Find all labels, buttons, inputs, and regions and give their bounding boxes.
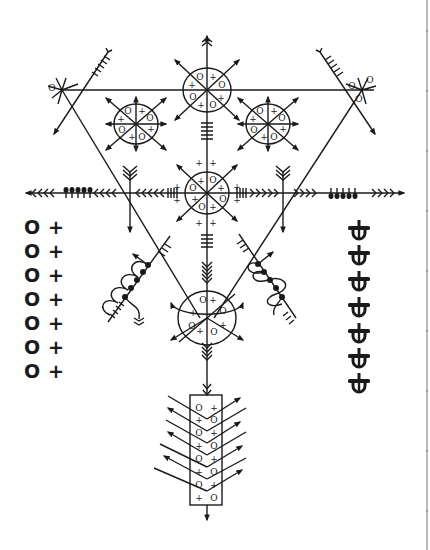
svg-text:+: + bbox=[48, 288, 64, 310]
svg-text:O: O bbox=[278, 113, 285, 123]
svg-text:+: + bbox=[48, 360, 64, 382]
svg-text:+: + bbox=[217, 183, 225, 193]
svg-text:+: + bbox=[209, 72, 217, 82]
svg-text:+: + bbox=[210, 403, 218, 413]
svg-text:O: O bbox=[219, 194, 226, 204]
crossed-loop-glyph-icon bbox=[348, 220, 370, 239]
svg-text:O: O bbox=[118, 125, 125, 135]
svg-text:+: + bbox=[195, 218, 203, 228]
svg-text:O: O bbox=[195, 454, 202, 464]
svg-text:+: + bbox=[195, 158, 203, 168]
svg-text:+: + bbox=[249, 114, 257, 124]
svg-text:O: O bbox=[138, 132, 145, 142]
svg-text:+: + bbox=[48, 336, 64, 358]
corner-arrows: O O O O bbox=[48, 48, 376, 134]
svg-text:+: + bbox=[48, 312, 64, 334]
svg-text:O: O bbox=[24, 360, 40, 382]
svg-text:O: O bbox=[218, 80, 225, 90]
svg-text:+: + bbox=[219, 320, 227, 330]
svg-text:O: O bbox=[24, 336, 40, 358]
looped-chain-right bbox=[237, 234, 296, 324]
svg-text:O: O bbox=[270, 132, 277, 142]
svg-text:+: + bbox=[209, 202, 217, 212]
svg-text:O: O bbox=[124, 106, 131, 116]
svg-text:+: + bbox=[195, 441, 203, 451]
svg-text:+: + bbox=[260, 132, 268, 142]
svg-text:+: + bbox=[210, 428, 218, 438]
svg-text:+: + bbox=[189, 308, 197, 318]
svg-text:O: O bbox=[209, 100, 216, 110]
svg-text:O: O bbox=[219, 306, 226, 316]
crossed-loop-glyph-icon bbox=[348, 245, 370, 264]
svg-text:+: + bbox=[279, 124, 287, 134]
right-glyph-column bbox=[348, 220, 370, 392]
svg-text:+: + bbox=[197, 100, 205, 110]
svg-text:+: + bbox=[270, 106, 278, 116]
svg-text:+: + bbox=[173, 182, 181, 192]
svg-text:+: + bbox=[195, 467, 203, 477]
svg-text:O: O bbox=[195, 403, 202, 413]
svg-text:+: + bbox=[217, 93, 225, 103]
crossed-loop-glyph-icon bbox=[348, 271, 370, 290]
svg-text:O: O bbox=[188, 321, 195, 331]
svg-text:+: + bbox=[147, 124, 155, 134]
svg-text:O: O bbox=[189, 183, 196, 193]
svg-text:O: O bbox=[195, 428, 202, 438]
svg-text:+: + bbox=[209, 218, 217, 228]
svg-text:+: + bbox=[210, 454, 218, 464]
sigil-ring-mark: O bbox=[348, 81, 355, 91]
svg-text:O: O bbox=[210, 467, 217, 477]
svg-text:+: + bbox=[209, 295, 217, 305]
svg-text:+: + bbox=[128, 132, 136, 142]
crossed-loop-glyph-icon bbox=[348, 373, 370, 392]
svg-text:+: + bbox=[48, 264, 64, 286]
svg-text:+: + bbox=[233, 195, 241, 205]
bottom-box: O + O + O + O + + O + O + O + O bbox=[154, 390, 246, 505]
svg-text:O: O bbox=[146, 113, 153, 123]
svg-text:O: O bbox=[250, 125, 257, 135]
svg-text:O: O bbox=[196, 72, 203, 82]
crossed-loop-glyph-icon bbox=[348, 323, 370, 342]
svg-text:+: + bbox=[117, 114, 125, 124]
svg-text:+: + bbox=[173, 195, 181, 205]
svg-text:O: O bbox=[24, 216, 40, 238]
svg-text:O: O bbox=[210, 415, 217, 425]
svg-text:+: + bbox=[195, 415, 203, 425]
svg-text:+: + bbox=[138, 106, 146, 116]
sigil-ring-mark: O bbox=[48, 83, 55, 93]
svg-text:+: + bbox=[188, 80, 196, 90]
circle-upper-right: O + O + O + O + bbox=[238, 97, 298, 151]
svg-text:+: + bbox=[196, 326, 204, 336]
svg-text:+: + bbox=[210, 480, 218, 490]
svg-text:+: + bbox=[209, 158, 217, 168]
sigil-ring-mark: O bbox=[366, 75, 373, 85]
page-edge bbox=[426, 0, 428, 550]
svg-text:O: O bbox=[24, 264, 40, 286]
svg-text:O: O bbox=[256, 106, 263, 116]
svg-text:+: + bbox=[195, 493, 203, 503]
left-symbol-column: O+ O+ O+ O+ O+ O+ O+ bbox=[24, 216, 64, 382]
svg-text:O: O bbox=[209, 175, 216, 185]
svg-text:O: O bbox=[210, 441, 217, 451]
svg-text:O: O bbox=[195, 480, 202, 490]
crossed-loop-glyph-icon bbox=[348, 348, 370, 367]
svg-text:+: + bbox=[48, 216, 64, 238]
svg-text:+: + bbox=[197, 176, 205, 186]
looped-chain-left bbox=[103, 236, 171, 325]
svg-text:O: O bbox=[210, 327, 217, 337]
sigil-ring-mark: O bbox=[355, 94, 362, 104]
svg-text:+: + bbox=[233, 182, 241, 192]
svg-text:O: O bbox=[199, 295, 206, 305]
svg-text:O: O bbox=[24, 240, 40, 262]
sigil-diagram: O O O O O + O + O + O + O + O + O + O + bbox=[0, 0, 430, 550]
svg-text:O: O bbox=[24, 288, 40, 310]
svg-text:O: O bbox=[198, 202, 205, 212]
circle-upper-left: O + O + O + O + bbox=[106, 97, 166, 151]
svg-text:O: O bbox=[189, 92, 196, 102]
svg-text:+: + bbox=[48, 240, 64, 262]
svg-text:O: O bbox=[24, 312, 40, 334]
svg-text:O: O bbox=[210, 493, 217, 503]
crossed-loop-glyph-icon bbox=[348, 297, 370, 316]
